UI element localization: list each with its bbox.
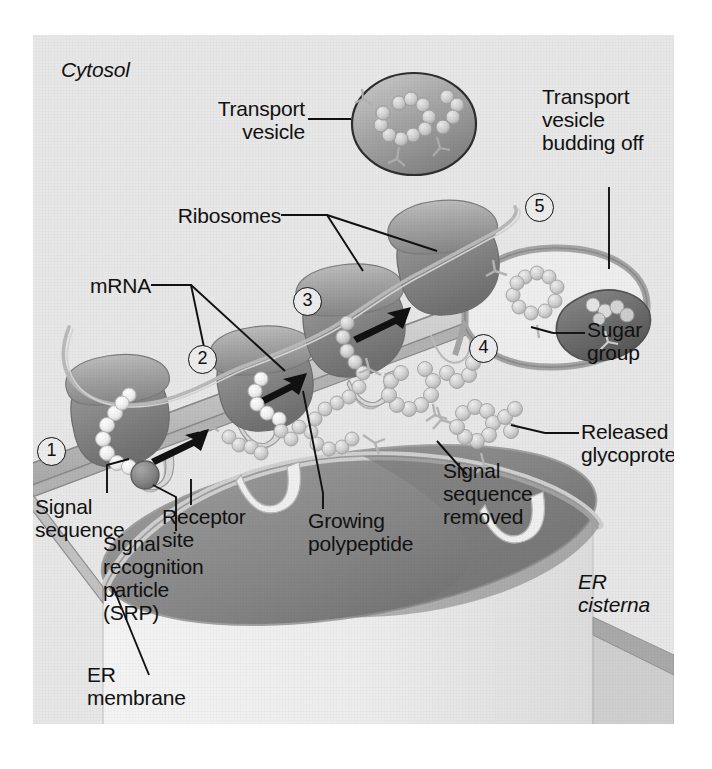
label-signal-sequence-removed: Signal sequence removed (443, 459, 532, 528)
step-number-4: 4 (469, 334, 498, 363)
label-cytosol: Cytosol (61, 58, 130, 81)
step-number-1: 1 (37, 437, 66, 466)
label-srp: Signal recognition particle (SRP) (103, 532, 204, 624)
step-number-5: 5 (525, 193, 554, 222)
srp-particle (131, 461, 159, 489)
label-mrna: mRNA (51, 274, 151, 297)
step-number-2: 2 (188, 345, 217, 374)
label-growing-polypeptide: Growing polypeptide (308, 509, 413, 555)
step-number-3: 3 (293, 287, 322, 316)
transport-vesicle-free (352, 73, 476, 175)
figure-canvas: Cytosol Transport vesicle Transport vesi… (0, 0, 712, 769)
label-ribosomes: Ribosomes (131, 204, 281, 227)
label-er-membrane: ER membrane (87, 663, 186, 709)
label-transport-vesicle: Transport vesicle (175, 97, 305, 143)
label-transport-vesicle-budding: Transport vesicle budding off (542, 85, 643, 154)
label-er-cisterna: ER cisterna (578, 570, 650, 616)
label-released-glycoprotein: Released glycoprotein (581, 420, 674, 466)
diagram-panel: Cytosol Transport vesicle Transport vesi… (33, 35, 674, 724)
label-sugar-group: Sugar group (587, 318, 642, 364)
ribosome-4 (388, 200, 499, 315)
